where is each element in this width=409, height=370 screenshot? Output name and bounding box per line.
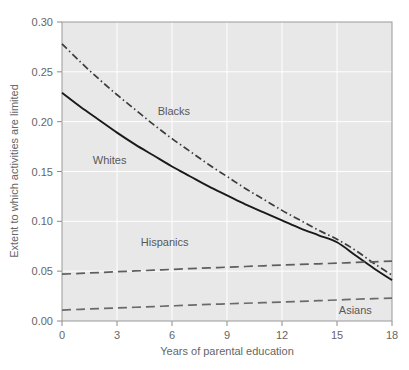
y-tick-label: 0.10 <box>32 215 53 227</box>
y-axis-title: Extent to which activities are limited <box>8 84 20 258</box>
y-tick-label: 0.30 <box>32 16 53 28</box>
series-label-asians: Asians <box>339 304 373 316</box>
x-axis-title: Years of parental education <box>160 345 294 357</box>
chart-figure: 0369121518 0.000.050.100.150.200.250.30 … <box>0 0 409 370</box>
y-tick-label: 0.00 <box>32 315 53 327</box>
y-tick-label: 0.20 <box>32 116 53 128</box>
x-tick-label: 15 <box>331 329 343 341</box>
x-tick-label: 3 <box>114 329 120 341</box>
series-label-blacks: Blacks <box>158 105 191 117</box>
x-tick-label: 6 <box>169 329 175 341</box>
y-tick-label: 0.25 <box>32 66 53 78</box>
series-label-whites: Whites <box>93 154 127 166</box>
line-chart-svg: 0369121518 0.000.050.100.150.200.250.30 … <box>0 0 409 370</box>
x-tick-label: 18 <box>386 329 398 341</box>
y-tick-label: 0.15 <box>32 166 53 178</box>
x-tick-label: 12 <box>276 329 288 341</box>
x-tick-label: 9 <box>224 329 230 341</box>
x-tick-label: 0 <box>59 329 65 341</box>
y-tick-label: 0.05 <box>32 265 53 277</box>
series-label-hispanics: Hispanics <box>141 236 189 248</box>
